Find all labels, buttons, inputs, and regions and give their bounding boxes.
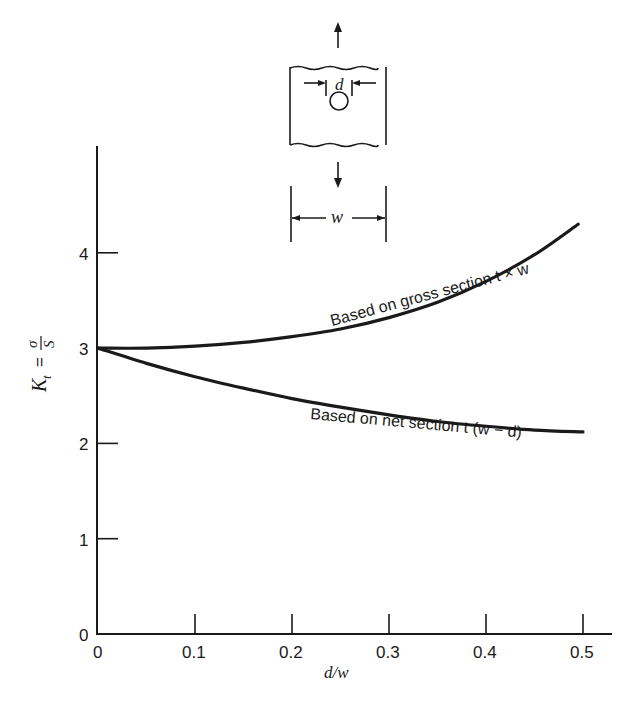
- net-curve-label: Based on net section t (w − d): [310, 405, 523, 440]
- gross-section-curve: [98, 224, 578, 348]
- svg-text:t: t: [39, 375, 54, 379]
- diagram-w-label: w: [331, 207, 343, 227]
- x-ticks: [195, 614, 583, 634]
- plate-top-edge: [290, 67, 378, 70]
- y-tick-label: 2: [79, 435, 88, 454]
- gross-curve-label: Based on gross section t × w: [328, 259, 531, 329]
- svg-text:=: =: [30, 357, 49, 367]
- chart-canvas: d w 01234 00.10.20.30.40.5 K t = σ S d/w…: [0, 0, 634, 701]
- hole-icon: [330, 92, 348, 110]
- y-tick-labels: 01234: [79, 245, 88, 645]
- diagram-d-label: d: [335, 75, 344, 94]
- plate-bottom-edge: [290, 144, 378, 147]
- x-tick-labels: 00.10.20.30.40.5: [93, 643, 594, 662]
- y-tick-label: 4: [79, 245, 88, 264]
- x-tick-label: 0.5: [570, 643, 594, 662]
- y-axis-label: K t = σ S: [24, 336, 57, 393]
- y-ticks: [97, 253, 118, 539]
- x-tick-label: 0.3: [376, 643, 400, 662]
- x-tick-label: 0: [93, 643, 102, 662]
- x-tick-label: 0.2: [279, 643, 303, 662]
- x-axis-label: d/w: [324, 663, 349, 682]
- y-tick-label: 1: [79, 531, 88, 550]
- svg-text:σ: σ: [24, 340, 40, 348]
- x-tick-label: 0.1: [182, 643, 206, 662]
- y-tick-label: 3: [79, 340, 88, 359]
- axes: [96, 146, 612, 635]
- x-tick-label: 0.4: [473, 643, 497, 662]
- svg-text:S: S: [41, 340, 57, 348]
- y-tick-label: 0: [79, 626, 88, 645]
